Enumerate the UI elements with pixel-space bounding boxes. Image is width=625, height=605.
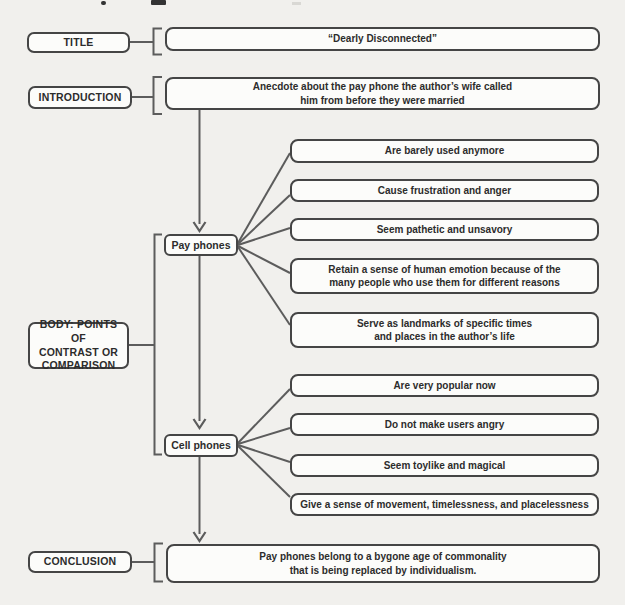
cell-phones-point-box: Seem toylike and magical xyxy=(290,454,599,477)
pay-phones-point-box: Retain a sense of human emotion because … xyxy=(290,258,599,294)
cell-phones-point-box: Do not make users angry xyxy=(290,413,599,436)
essay-structure-diagram: TITLE INTRODUCTION BODY: POINTS OF CONTR… xyxy=(0,0,625,605)
pay-phones-point-box: Are barely used anymore xyxy=(290,139,599,163)
cell-phones-point-box: Give a sense of movement, timelessness, … xyxy=(290,493,599,516)
scan-artifact xyxy=(151,0,166,5)
introduction-label: INTRODUCTION xyxy=(28,86,132,109)
introduction-content-box: Anecdote about the pay phone the author’… xyxy=(165,77,600,110)
body-label: BODY: POINTS OF CONTRAST OR COMPARISON xyxy=(28,322,129,369)
pay-phones-point-box: Serve as landmarks of specific times and… xyxy=(290,312,599,348)
conclusion-bracket xyxy=(155,544,164,582)
cell-fan-line-1 xyxy=(238,389,290,443)
conclusion-content-box: Pay phones belong to a bygone age of com… xyxy=(166,544,600,583)
body-bracket xyxy=(155,235,163,455)
pay-phones-point-box: Seem pathetic and unsavory xyxy=(290,218,599,241)
introduction-bracket xyxy=(154,77,163,114)
title-bracket xyxy=(154,29,163,55)
pay-phones-node: Pay phones xyxy=(164,234,238,256)
scan-artifact xyxy=(101,1,106,5)
pay-phones-point-box: Cause frustration and anger xyxy=(290,179,599,202)
conclusion-label: CONCLUSION xyxy=(28,551,132,573)
cell-phones-point-box: Are very popular now xyxy=(290,374,599,397)
title-label: TITLE xyxy=(27,32,130,53)
title-content-box: “Dearly Disconnected” xyxy=(165,27,600,51)
scan-artifact xyxy=(292,2,301,5)
cell-phones-node: Cell phones xyxy=(164,434,238,457)
